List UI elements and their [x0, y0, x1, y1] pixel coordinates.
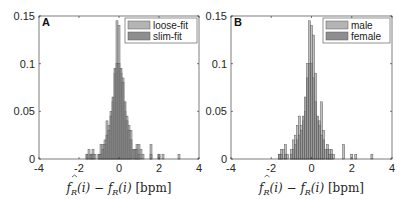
legend-swatch: [326, 32, 348, 40]
y-tick-label: 0.1: [20, 58, 35, 70]
hat-accent-icon: [72, 175, 77, 177]
legend-swatch: [128, 21, 150, 29]
histogram-bar: [134, 149, 136, 159]
histogram-bar: [294, 145, 296, 159]
histogram-bar: [98, 154, 100, 159]
x-tick-label: -2: [266, 162, 276, 174]
histogram-bar: [327, 149, 329, 159]
legend: loose-fitslim-fit: [125, 18, 197, 43]
histogram-bar: [110, 116, 112, 159]
histogram-bar: [126, 121, 128, 159]
x-tick-label: -4: [226, 162, 236, 174]
histogram-bar: [300, 130, 302, 159]
histogram-bar: [302, 116, 304, 159]
legend-swatch: [128, 32, 150, 40]
histogram-bar: [132, 149, 134, 159]
histogram-bar: [142, 154, 144, 159]
histogram-bar: [308, 64, 310, 159]
x-tick-label: 2: [349, 162, 355, 174]
histogram-bar: [355, 154, 357, 159]
histogram-bar: [162, 154, 164, 159]
legend: malefemale: [323, 18, 390, 43]
histogram-bar: [114, 68, 116, 159]
x-tick-label: 2: [156, 162, 162, 174]
histogram-bar: [313, 78, 315, 159]
histogram-bar: [298, 135, 300, 159]
x-tick-label: -4: [34, 162, 44, 174]
y-tick-label: 0.05: [14, 105, 35, 117]
panel-a: -4-202400.050.10.15Aloose-fitslim-fitfR(…: [14, 10, 202, 197]
legend-label: male: [351, 20, 373, 31]
histogram-bar: [102, 149, 104, 159]
histogram-bar: [317, 116, 319, 159]
histogram-bar: [371, 154, 373, 159]
legend-label: slim-fit: [153, 31, 182, 42]
y-tick-label: 0.05: [206, 105, 227, 117]
histogram-figure: -4-202400.050.10.15Aloose-fitslim-fitfR(…: [0, 0, 404, 199]
histogram-bar: [108, 130, 110, 159]
panel-label: A: [42, 16, 50, 28]
histogram-bar: [128, 130, 130, 159]
histogram-bar: [292, 149, 294, 159]
x-axis-label: fR(i) − fR(i) [bpm]: [66, 181, 172, 197]
panel-b: -4-202400.050.10.15BmalefemalefR(i) − fR…: [206, 10, 395, 197]
x-tick-label: 4: [389, 162, 395, 174]
histogram-bar: [122, 83, 124, 159]
histogram-bar: [333, 154, 335, 159]
histogram-bar: [136, 149, 138, 159]
histogram-bar: [88, 149, 90, 159]
histogram-bar: [124, 102, 126, 159]
histogram-bar: [150, 154, 152, 159]
histogram-bar: [315, 102, 317, 159]
histogram-bar: [278, 154, 280, 159]
histogram-bar: [112, 97, 114, 159]
histogram-bar: [86, 154, 88, 159]
histogram-bar: [329, 154, 331, 159]
histogram-bar: [120, 68, 122, 159]
histogram-bar: [104, 145, 106, 159]
legend-label: loose-fit: [153, 20, 188, 31]
legend-swatch: [326, 21, 348, 29]
histogram-bar: [106, 135, 108, 159]
histogram-bar: [118, 64, 120, 159]
histogram-bar: [100, 154, 102, 159]
histogram-bar: [92, 154, 94, 159]
histogram-bar: [280, 154, 282, 159]
y-tick-label: 0.1: [212, 58, 227, 70]
histogram-bar: [130, 140, 132, 159]
histogram-bar: [296, 140, 298, 159]
histogram-bar: [90, 154, 92, 159]
y-tick-label: 0: [221, 153, 227, 165]
histogram-bar: [178, 154, 180, 159]
histogram-bar: [286, 154, 288, 159]
histogram-bar: [310, 64, 312, 159]
figure-canvas: -4-202400.050.10.15Aloose-fitslim-fitfR(…: [0, 0, 404, 199]
x-tick-label: 0: [308, 162, 314, 174]
x-tick-label: 4: [196, 162, 202, 174]
histogram-bar: [304, 97, 306, 159]
y-tick-label: 0: [29, 153, 35, 165]
histogram-bar: [94, 154, 96, 159]
x-tick-label: -2: [74, 162, 84, 174]
histogram-bar: [319, 126, 321, 159]
legend-label: female: [351, 31, 381, 42]
histogram-bar: [323, 140, 325, 159]
histogram-bar: [138, 154, 140, 159]
histogram-bar: [140, 149, 142, 159]
y-tick-label: 0.15: [206, 10, 227, 22]
histogram-bar: [306, 78, 308, 159]
histogram-bar: [331, 154, 333, 159]
x-tick-label: 0: [116, 162, 122, 174]
histogram-bar: [343, 145, 345, 159]
histogram-bar: [116, 64, 118, 159]
histogram-bar: [284, 154, 286, 159]
histogram-bar: [325, 149, 327, 159]
x-axis-label: fR(i) − fR(i) [bpm]: [258, 181, 364, 197]
y-tick-label: 0.15: [14, 10, 35, 22]
panel-label: B: [234, 16, 242, 28]
histogram-bar: [282, 149, 284, 159]
histogram-bar: [321, 135, 323, 159]
histogram-bar: [290, 154, 292, 159]
hat-accent-icon: [265, 175, 270, 177]
